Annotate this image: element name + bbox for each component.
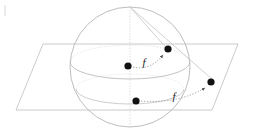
point-sphere-upper-left — [124, 62, 131, 69]
point-plane-right — [207, 78, 214, 85]
label-f-lower: f — [172, 90, 177, 102]
stray-mark-icon — [4, 5, 6, 16]
figure-root: f f — [0, 0, 253, 137]
projection-ray-to-plane-right — [130, 7, 213, 80]
mapping-arrow-upper — [133, 55, 163, 68]
projection-plane — [16, 44, 238, 110]
lower-latitude-back-arc — [76, 74, 184, 89]
label-f-upper: f — [142, 56, 147, 68]
point-sphere-lower — [132, 97, 139, 104]
point-sphere-upper-right — [164, 45, 171, 52]
stereographic-projection-figure: f f — [0, 0, 253, 137]
projection-ray-to-sphere-point — [130, 7, 170, 52]
